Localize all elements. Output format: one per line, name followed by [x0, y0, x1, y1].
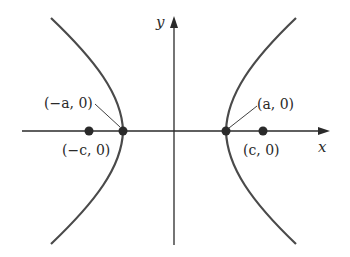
left-vertex-leader	[95, 104, 120, 127]
y-axis-label: y	[155, 13, 165, 31]
x-axis-arrow-icon	[318, 127, 330, 135]
right-vertex-point	[222, 127, 231, 136]
y-axis-arrow-icon	[170, 16, 178, 28]
left-focus-point	[85, 127, 94, 136]
right-vertex-label: (a, 0)	[257, 96, 294, 112]
diagram-svg: y x (−a, 0) (−c, 0) (a, 0) (c, 0)	[0, 0, 350, 257]
left-focus-label: (−c, 0)	[62, 142, 110, 158]
x-axis-label: x	[318, 138, 327, 156]
hyperbola-diagram: y x (−a, 0) (−c, 0) (a, 0) (c, 0)	[0, 0, 350, 257]
x-axis	[22, 127, 330, 135]
right-focus-point	[259, 127, 268, 136]
left-vertex-label: (−a, 0)	[44, 95, 93, 111]
right-focus-label: (c, 0)	[243, 142, 280, 158]
left-vertex-point	[119, 127, 128, 136]
right-vertex-leader	[229, 106, 257, 128]
